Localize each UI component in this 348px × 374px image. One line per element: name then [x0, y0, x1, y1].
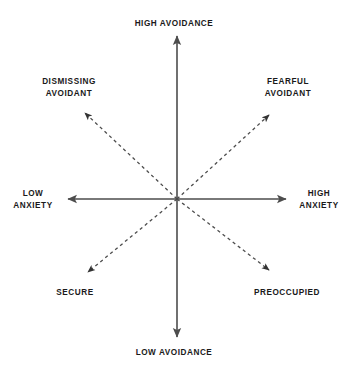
axes-and-arrows	[0, 0, 348, 374]
axis-label-high-avoidance: HIGH AVOIDANCE	[0, 18, 348, 30]
quadrant-label-preoccupied: PREOCCUPIED	[232, 287, 342, 299]
quadrant-label-secure: SECURE	[30, 287, 120, 299]
axis-label-low-anxiety: LOW ANXIETY	[4, 188, 62, 211]
diagonal-arrow-top-left	[85, 113, 177, 199]
diagonal-arrow-bottom-right	[177, 199, 269, 270]
quadrant-label-dismissing-avoidant: DISMISSING AVOIDANT	[14, 76, 124, 99]
quadrant-label-fearful-avoidant: FEARFUL AVOIDANT	[236, 76, 340, 99]
attachment-styles-diagram: HIGH AVOIDANCE LOW AVOIDANCE LOW ANXIETY…	[0, 0, 348, 374]
axis-label-high-anxiety: HIGH ANXIETY	[292, 188, 346, 211]
axis-label-low-avoidance: LOW AVOIDANCE	[0, 347, 348, 359]
diagonal-arrow-bottom-left	[88, 199, 177, 272]
diagonal-arrow-top-right	[177, 115, 269, 199]
